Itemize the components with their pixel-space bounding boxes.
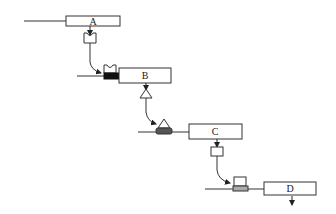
transfer-arrow-c-d [217, 156, 230, 183]
light-gray-block [233, 186, 248, 191]
rectangle-token-icon [211, 147, 223, 156]
box-c-label: C [212, 126, 219, 137]
box-a-label: A [89, 16, 97, 27]
transfer-arrow-a-b [90, 43, 101, 73]
stage-a: A [24, 16, 120, 74]
process-diagram: A B C D [0, 0, 336, 214]
stage-b: B [77, 65, 171, 124]
box-d-label: D [286, 183, 293, 194]
stage-c: C [138, 119, 242, 183]
stage-d: D [205, 177, 316, 205]
dark-gray-block [156, 128, 172, 134]
triangle-token-icon [140, 89, 152, 98]
u-container-on-block-icon [104, 65, 116, 73]
box-b-label: B [142, 70, 149, 81]
triangle-on-block-icon [158, 119, 170, 128]
black-block [104, 73, 119, 79]
transfer-arrow-b-c [146, 98, 156, 124]
rectangle-on-block-icon [234, 177, 246, 186]
